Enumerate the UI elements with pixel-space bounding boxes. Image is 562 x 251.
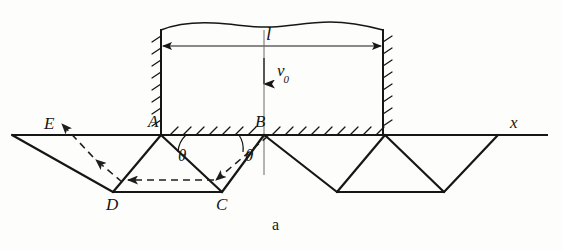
point-label-B: B bbox=[255, 113, 265, 130]
angle-label-right: θ bbox=[245, 147, 253, 164]
velocity-subscript: 0 bbox=[284, 73, 290, 85]
axis-label-x: x bbox=[510, 114, 518, 131]
sawtooth-profile bbox=[12, 135, 498, 192]
segment-AC bbox=[161, 135, 222, 192]
length-label: l bbox=[266, 24, 271, 43]
physics-figure: l v0 x E A B C D θ θ a bbox=[0, 0, 562, 251]
point-label-C: C bbox=[216, 196, 227, 213]
angle-arcs bbox=[178, 135, 243, 152]
segment-DA bbox=[113, 135, 161, 192]
velocity-label: v0 bbox=[277, 62, 290, 82]
angle-arc-right bbox=[239, 135, 243, 152]
baseline-hatching bbox=[170, 127, 384, 135]
figure-canvas bbox=[0, 0, 562, 251]
segment-valley3-node4 bbox=[444, 135, 498, 192]
segment-valley2-node3 bbox=[337, 135, 385, 192]
segment-node3-valley3 bbox=[385, 135, 444, 192]
segment-B-valley2 bbox=[264, 135, 337, 192]
right-wall-hatching bbox=[383, 36, 392, 126]
dashed-ray-outgoing-1 bbox=[96, 160, 122, 182]
point-label-D: D bbox=[106, 196, 118, 213]
container-group bbox=[152, 22, 392, 136]
angle-label-left: θ bbox=[178, 147, 186, 164]
point-label-E: E bbox=[44, 115, 54, 132]
dashed-ray-outgoing-2 bbox=[62, 124, 93, 157]
wavy-break-line bbox=[161, 22, 383, 30]
segment-ED bbox=[12, 135, 113, 192]
figure-caption: a bbox=[272, 216, 279, 234]
point-label-A: A bbox=[148, 113, 158, 130]
